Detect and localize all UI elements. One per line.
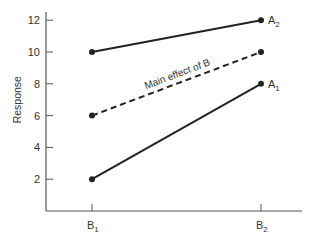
y-tick-label: 12 — [28, 14, 40, 26]
y-tick-label: 6 — [34, 110, 40, 122]
series-line — [92, 52, 261, 116]
interaction-plot: 24681012B1B2 Response A2A1Main effect of… — [0, 0, 314, 242]
x-tick-label: B1 — [87, 219, 99, 234]
y-tick-label: 4 — [34, 141, 40, 153]
annotation-main-effect: Main effect of B — [143, 56, 212, 91]
series-lines — [89, 17, 264, 182]
series-line — [92, 84, 261, 179]
data-point — [89, 49, 95, 55]
series-line — [92, 20, 261, 52]
data-point — [89, 176, 95, 182]
data-point — [89, 113, 95, 119]
y-tick-label: 2 — [34, 173, 40, 185]
y-axis-label: Response — [11, 76, 23, 123]
data-point — [258, 81, 264, 87]
data-point — [258, 49, 264, 55]
y-tick-label: 8 — [34, 78, 40, 90]
data-point — [258, 17, 264, 23]
x-tick-label: B2 — [256, 219, 268, 234]
axes: 24681012B1B2 — [28, 12, 302, 234]
series-end-label: A1 — [268, 78, 280, 93]
y-tick-label: 10 — [28, 46, 40, 58]
y-axis-title: Response — [11, 76, 23, 123]
series-end-label: A2 — [268, 14, 280, 29]
